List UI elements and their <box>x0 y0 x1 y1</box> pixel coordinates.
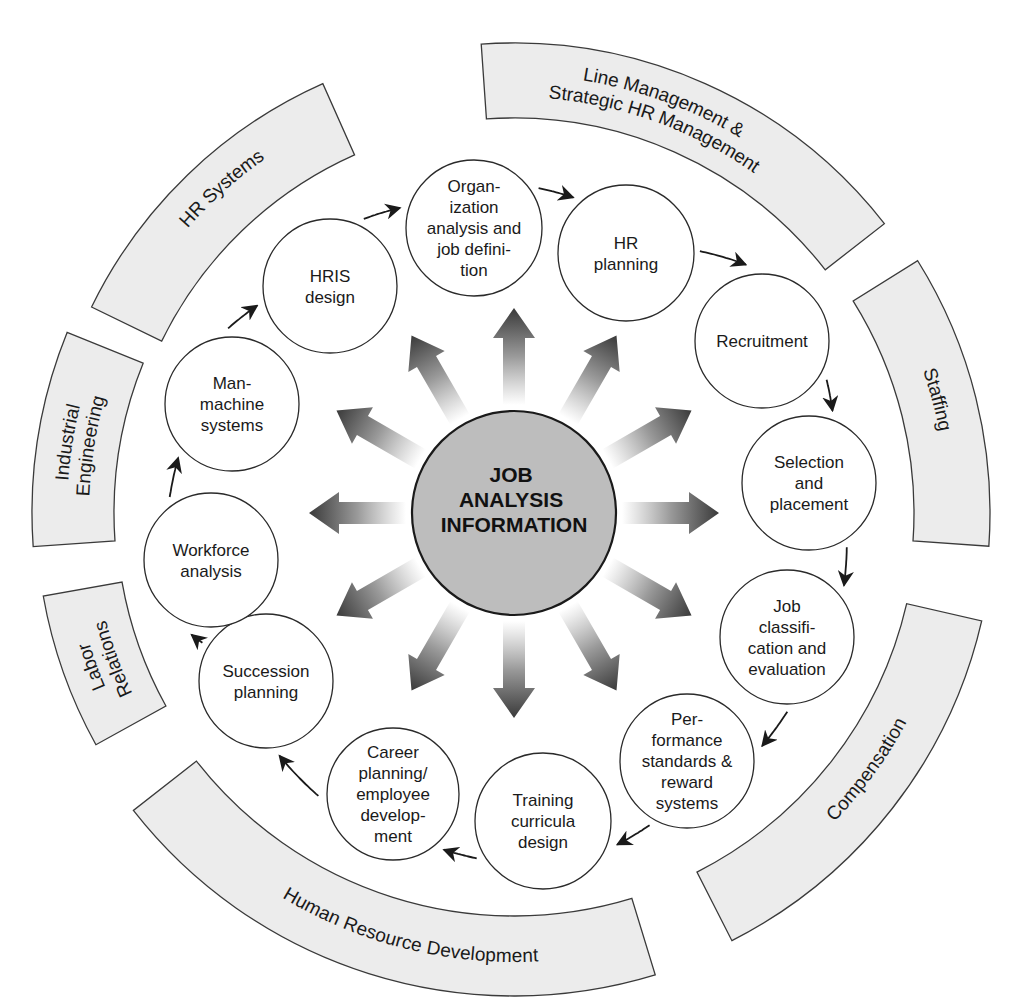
radiating-arrow-icon <box>550 325 635 430</box>
band-industrial-engineering: IndustrialEngineering <box>32 332 143 546</box>
flow-arrow <box>444 850 477 859</box>
flow-arrow <box>844 547 847 585</box>
node-label: Trainingcurriculadesign <box>511 791 576 852</box>
radiating-arrow-icon <box>622 492 719 534</box>
flow-arrow <box>192 635 203 643</box>
band-shape <box>853 261 990 546</box>
node-circle <box>144 493 278 627</box>
node-performance-standards: Per-formancestandards &rewardsystems <box>620 694 754 828</box>
flow-arrow <box>539 188 574 197</box>
flow-arrow <box>364 208 400 219</box>
band-labor-relations: LaborRelations <box>43 582 166 745</box>
core-label-line-1: JOB <box>489 463 532 486</box>
radiating-arrow-icon <box>550 596 635 701</box>
core-label-line-3: INFORMATION <box>441 513 588 536</box>
flow-arrow <box>228 306 257 329</box>
radiating-arrow-icon <box>393 325 478 430</box>
node-recruitment: Recruitment <box>695 274 829 408</box>
flow-arrow <box>170 458 179 497</box>
job-analysis-core: JOB ANALYSIS INFORMATION <box>412 411 616 615</box>
node-label: Recruitment <box>716 332 808 351</box>
radiating-arrow-icon <box>493 621 535 718</box>
radiating-arrow-icon <box>597 392 702 477</box>
job-analysis-diagram: HR SystemsLine Management &Strategic HR … <box>0 0 1030 1007</box>
flow-arrow <box>617 825 649 844</box>
flow-arrow <box>280 756 319 796</box>
node-selection-placement: Selectionandplacement <box>742 416 876 550</box>
node-hris-design: HRISdesign <box>263 219 397 353</box>
node-circle <box>263 219 397 353</box>
node-hr-planning: HRplanning <box>558 185 694 321</box>
node-training-curricula: Trainingcurriculadesign <box>475 753 611 889</box>
band-staffing: Staffing <box>853 261 990 546</box>
radiating-arrow-icon <box>393 596 478 701</box>
flow-arrow <box>762 712 787 746</box>
node-circle <box>199 614 333 748</box>
node-org-analysis: Organ-izationanalysis andjob defini-tion <box>406 160 542 296</box>
node-career-planning: Careerplanning/employeedevelop-ment <box>327 728 459 860</box>
radiating-arrow-icon <box>326 549 431 634</box>
radiating-arrow-icon <box>493 308 535 405</box>
radiating-arrow-icon <box>597 549 702 634</box>
radiating-arrow-icon <box>309 492 406 534</box>
node-circle <box>558 185 694 321</box>
radiating-arrow-icon <box>326 392 431 477</box>
node-circle <box>720 570 854 704</box>
node-man-machine: Man-machinesystems <box>165 337 299 471</box>
node-job-classification: Jobclassifi-cation andevaluation <box>720 570 854 704</box>
node-succession-planning: Successionplanning <box>199 614 333 748</box>
flow-arrow <box>827 380 833 411</box>
flow-arrow <box>700 251 746 264</box>
node-workforce-analysis: Workforceanalysis <box>144 493 278 627</box>
core-label-line-2: ANALYSIS <box>459 488 563 511</box>
